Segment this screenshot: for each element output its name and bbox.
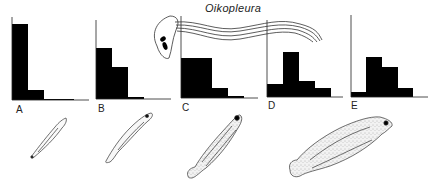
larvae-illustrations — [0, 0, 439, 186]
larva-d — [289, 117, 392, 177]
larva-a — [31, 118, 67, 158]
larva-c — [187, 115, 241, 178]
larva-b — [106, 113, 153, 163]
figure: Oikopleura A B C D E — [0, 0, 439, 186]
